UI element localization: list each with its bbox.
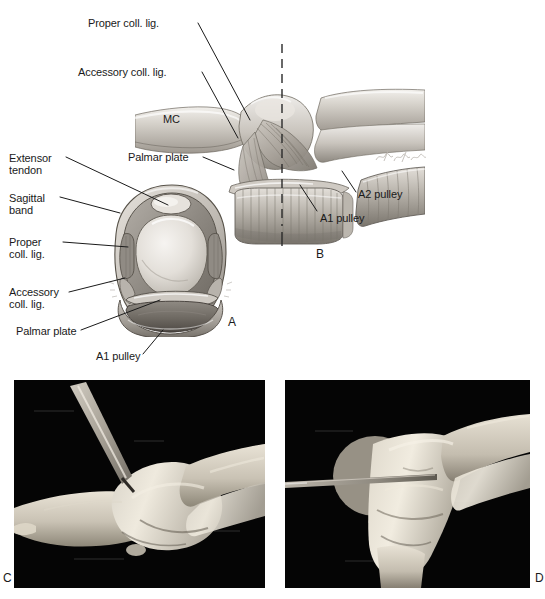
label-sagittal-band-line1: Sagittal xyxy=(9,192,45,205)
panel-letter-a: A xyxy=(228,315,236,329)
label-a1-pulley-a: A1 pulley xyxy=(96,350,140,363)
section-plane-dashed-line xyxy=(279,44,285,226)
label-sagittal-band-line2: band xyxy=(9,204,33,217)
panel-d-photograph xyxy=(285,380,530,588)
anatomy-figure: Proper coll. lig. Accessory coll. lig. M… xyxy=(0,0,545,599)
label-a1-pulley-b: A1 pulley xyxy=(320,212,364,225)
label-extensor-tendon-line2: tendon xyxy=(9,164,42,177)
panel-letter-b: B xyxy=(316,247,324,261)
label-palmar-plate-a: Palmar plate xyxy=(16,325,77,338)
artist-signature xyxy=(374,148,428,166)
label-accessory-coll-lig-a-line2: coll. lig. xyxy=(9,298,45,311)
label-proper-coll-lig-b: Proper coll. lig. xyxy=(88,17,159,30)
label-proper-coll-lig-a-line1: Proper xyxy=(9,236,41,249)
label-palmar-plate-b: Palmar plate xyxy=(128,151,189,164)
label-extensor-tendon-line1: Extensor xyxy=(9,152,52,165)
label-mc-b: MC xyxy=(163,113,180,126)
label-proper-coll-lig-a-line2: coll. lig. xyxy=(9,248,45,261)
panel-letter-d: D xyxy=(535,571,544,585)
label-accessory-coll-lig-a-line1: Accessory xyxy=(9,286,59,299)
section-plane-dash-tail xyxy=(279,232,285,246)
panel-letter-c: C xyxy=(3,571,12,585)
label-accessory-coll-lig-b: Accessory coll. lig. xyxy=(78,66,166,79)
panel-c-photograph xyxy=(14,380,265,588)
panel-a-illustration xyxy=(108,182,236,337)
label-a2-pulley-b: A2 pulley xyxy=(358,188,402,201)
